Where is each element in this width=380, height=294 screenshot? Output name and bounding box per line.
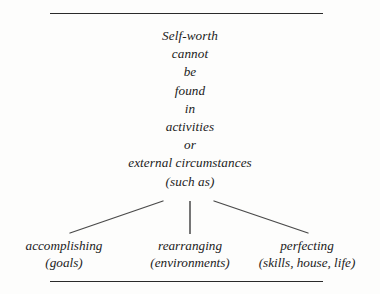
stanza-line-1: Self-worth <box>0 27 380 45</box>
branch-right-sub: (skills, house, life) <box>243 254 371 271</box>
branch-left-head: accomplishing <box>0 237 128 254</box>
stanza-line-2: cannot <box>0 45 380 63</box>
bottom-horizontal-rule <box>50 281 323 282</box>
branch-perfecting: perfecting (skills, house, life) <box>243 237 371 272</box>
stanza-line-8: external circumstances <box>0 154 380 172</box>
self-worth-concept-diagram: Self-worth cannot be found in activities… <box>0 0 380 294</box>
connector-line-left <box>70 201 163 233</box>
stanza-block: Self-worth cannot be found in activities… <box>0 27 380 191</box>
stanza-line-4: found <box>0 82 380 100</box>
connector-line-right <box>214 201 308 233</box>
branch-rearranging: rearranging (environments) <box>126 237 254 272</box>
stanza-line-3: be <box>0 63 380 81</box>
stanza-line-7: or <box>0 136 380 154</box>
branch-right-head: perfecting <box>243 237 371 254</box>
branch-accomplishing: accomplishing (goals) <box>0 237 128 272</box>
stanza-line-9: (such as) <box>0 173 380 191</box>
top-horizontal-rule <box>50 13 323 14</box>
stanza-line-6: activities <box>0 118 380 136</box>
branch-center-sub: (environments) <box>126 254 254 271</box>
branch-left-sub: (goals) <box>0 254 128 271</box>
stanza-line-5: in <box>0 100 380 118</box>
branch-center-head: rearranging <box>126 237 254 254</box>
